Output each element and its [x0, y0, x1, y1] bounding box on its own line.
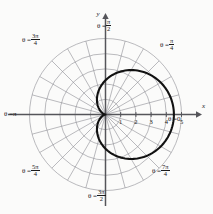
theta-5pi-4-lhs: θ =	[22, 168, 31, 175]
grid-spoke-240deg	[68, 115, 106, 181]
theta-0-value: 0	[177, 115, 181, 123]
grid-spoke-60deg	[106, 49, 144, 115]
radial-tick-label-2: 2	[134, 118, 137, 125]
grid-spoke-255deg	[86, 115, 106, 188]
theta-5pi-4-fraction: 5π4	[31, 164, 40, 178]
theta-3pi-4-lhs: θ =	[22, 37, 31, 44]
angle-label-theta-pi-4: θ = π4	[160, 38, 174, 52]
angle-label-theta-pi-2: θ = π2	[97, 19, 111, 33]
grid-spoke-195deg	[32, 115, 105, 135]
angle-label-theta-7pi-4: θ = 7π4	[152, 164, 170, 178]
grid-spoke-300deg	[106, 115, 144, 181]
angle-label-theta-3pi-4: θ = 3π4	[22, 33, 40, 47]
theta-3pi-2-denominator: 2	[97, 196, 106, 203]
theta-7pi-4-fraction: 7π4	[161, 164, 170, 178]
theta-pi-4-denominator: 4	[169, 45, 174, 52]
theta-pi-2-fraction: π2	[106, 19, 111, 33]
x-axis-label: x	[202, 103, 205, 110]
theta-pi-2-denominator: 2	[106, 26, 111, 33]
angle-label-theta-5pi-4: θ = 5π4	[22, 164, 40, 178]
polar-plot-figure: 12345 y x θ = 0θ = π4θ = π2θ = 3π4θ = πθ…	[0, 0, 213, 214]
grid-spoke-15deg	[106, 95, 179, 115]
radial-tick-label-1: 1	[119, 118, 122, 125]
grid-spoke-105deg	[86, 41, 106, 114]
grid-spoke-150deg	[40, 77, 106, 115]
angle-label-theta-3pi-2: θ = 3π2	[88, 189, 106, 203]
theta-pi-2-lhs: θ =	[97, 23, 106, 30]
y-axis-label: y	[97, 11, 100, 18]
theta-3pi-2-lhs: θ =	[88, 193, 97, 200]
angle-label-theta-0: θ = 0	[168, 116, 181, 123]
grid-spoke-45deg	[106, 61, 160, 115]
theta-3pi-2-fraction: 3π2	[97, 189, 106, 203]
theta-5pi-4-denominator: 4	[31, 171, 40, 178]
grid-spoke-165deg	[32, 95, 105, 115]
theta-0-lhs: θ =	[168, 116, 177, 123]
grid-spoke-120deg	[68, 49, 106, 115]
theta-pi-4-lhs: θ =	[160, 42, 169, 49]
x-axis-arrowhead	[196, 111, 202, 117]
theta-7pi-4-lhs: θ =	[152, 168, 161, 175]
theta-3pi-4-fraction: 3π4	[31, 33, 40, 47]
theta-pi-4-fraction: π4	[169, 38, 174, 52]
grid-spoke-210deg	[40, 115, 106, 153]
theta-pi-lhs: θ =	[4, 111, 13, 118]
theta-pi-value: π	[13, 110, 17, 118]
theta-7pi-4-denominator: 4	[161, 171, 170, 178]
theta-3pi-4-denominator: 4	[31, 40, 40, 47]
angle-label-theta-pi: θ = π	[4, 111, 17, 118]
radial-tick-label-3: 3	[150, 118, 153, 125]
